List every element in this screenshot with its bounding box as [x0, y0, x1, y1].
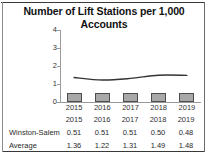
y-axis-tick-mark: [57, 66, 60, 67]
table-cell: 1.31: [116, 139, 144, 152]
data-table-wrapper: 20152016201720182019Winston-Salem0.510.5…: [0, 113, 208, 152]
table-row: Winston-Salem0.510.510.510.500.48: [0, 126, 208, 139]
table-cell: 1.49: [144, 139, 172, 152]
y-axis-tick-mark: [57, 102, 60, 103]
x-axis-tick-label: 2016: [89, 103, 115, 112]
table-cell: 1.22: [88, 139, 116, 152]
table-spacer-cell: [200, 113, 208, 126]
y-axis-tick-mark: [57, 48, 60, 49]
table-row: Average1.361.221.311.491.48: [0, 139, 208, 152]
table-cell: 0.48: [172, 126, 200, 139]
x-axis-tick-label: 2018: [146, 103, 172, 112]
chart-title: Number of Lift Stations per 1,000 Accoun…: [8, 5, 200, 30]
data-table-body: 20152016201720182019Winston-Salem0.510.5…: [0, 113, 208, 152]
plot-area: 43210 20152016201720182019: [0, 30, 208, 114]
page-frame-top-rule: [1, 2, 205, 3]
data-table-column-header: 2019: [172, 113, 200, 126]
data-table-column-header: 2015: [60, 113, 88, 126]
table-row-label: Average: [0, 139, 60, 152]
chart-title-line-1: Number of Lift Stations per 1,000: [8, 5, 200, 18]
data-table-column-header: 2017: [116, 113, 144, 126]
y-axis-tick-mark: [57, 30, 60, 31]
table-cell: 0.50: [144, 126, 172, 139]
data-table: 20152016201720182019Winston-Salem0.510.5…: [0, 113, 208, 152]
table-cell: 0.51: [60, 126, 88, 139]
table-row-label: Winston-Salem: [0, 126, 60, 139]
table-spacer-cell: [200, 139, 208, 152]
average-line-svg: [60, 30, 201, 102]
y-axis-tick-label: 1: [46, 80, 57, 88]
data-table-column-header: 2016: [88, 113, 116, 126]
x-axis-tick-label: 2017: [118, 103, 144, 112]
data-table-header-row: 20152016201720182019: [0, 113, 208, 126]
y-axis-tick-labels: 43210: [46, 30, 57, 102]
y-axis-tick-label: 0: [46, 98, 57, 106]
y-axis-tick-mark: [57, 84, 60, 85]
data-table-corner-cell: [0, 113, 60, 126]
table-spacer-cell: [200, 126, 208, 139]
x-axis-tick-label: 2015: [61, 103, 87, 112]
table-cell: 0.51: [88, 126, 116, 139]
x-axis-tick-label: 2019: [174, 103, 200, 112]
average-line-path: [74, 75, 187, 80]
y-axis-tick-label: 4: [46, 26, 57, 34]
table-cell: 1.48: [172, 139, 200, 152]
table-cell: 1.36: [60, 139, 88, 152]
y-axis-tick-label: 2: [46, 62, 57, 70]
chart-title-line-2: Accounts: [8, 18, 200, 31]
chart-figure: Number of Lift Stations per 1,000 Accoun…: [0, 0, 208, 159]
y-axis-tick-label: 3: [46, 44, 57, 52]
line-series-average: [60, 30, 201, 102]
table-cell: 0.51: [116, 126, 144, 139]
data-table-column-header: 2018: [144, 113, 172, 126]
